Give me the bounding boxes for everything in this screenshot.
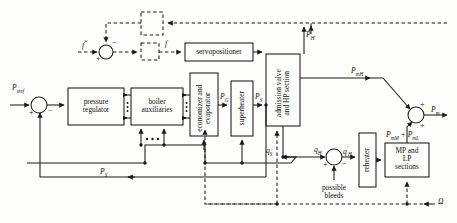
wire-valve-to-qh — [283, 126, 325, 157]
block-servopositioner — [185, 43, 253, 61]
ellipsis-dots — [127, 102, 188, 140]
wire-valve-to-pmh — [300, 78, 410, 109]
block-reheater — [359, 133, 376, 187]
block-boiler-auxiliaries — [131, 88, 183, 125]
wire-omega-rail — [205, 130, 435, 204]
wire-qs-feedback — [27, 145, 296, 163]
sum-junction-pressure — [31, 97, 47, 113]
block-mp-lp-sections — [385, 143, 429, 177]
block-superheater — [231, 81, 253, 136]
wire-mplp-to-sum — [407, 122, 412, 143]
block-admission-valve-hp — [266, 54, 300, 126]
block-economizer-evaporator — [190, 73, 218, 136]
wire-dashedupper-to-sum — [106, 23, 141, 42]
sum-junction-bleeds — [326, 149, 342, 165]
figure-canvas: pressure regulator boiler auxiliaries ec… — [0, 0, 457, 223]
block-dashed-lower — [141, 43, 159, 60]
sum-junction-fuel — [99, 45, 113, 59]
block-pressure-regulator — [68, 88, 124, 125]
block-diagram-svg — [0, 0, 457, 223]
sum-junction-power — [408, 107, 424, 123]
junction-dots — [139, 103, 408, 205]
block-dashed-upper — [141, 12, 163, 35]
